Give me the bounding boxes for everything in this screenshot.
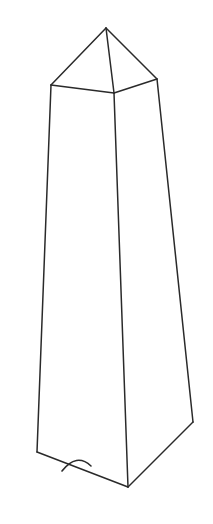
figure-canvas: Obelisk Black-and-white wireframe line d…: [0, 0, 213, 524]
shaft-left-face: [37, 85, 128, 487]
obelisk-drawing: Obelisk Black-and-white wireframe line d…: [0, 0, 213, 524]
pyramidion-left-face: [51, 28, 114, 93]
solid-faces: [37, 28, 193, 487]
